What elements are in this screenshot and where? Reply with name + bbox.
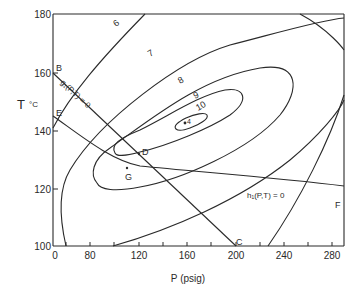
point-c-label: C <box>236 237 243 247</box>
contour-6 <box>53 14 145 128</box>
point-f-label: F <box>335 200 341 210</box>
y-tick-label: 180 <box>34 9 51 20</box>
contour-label-6: 6 <box>111 18 121 29</box>
y-tick-label: 140 <box>34 126 51 137</box>
point-g-label: G <box>125 172 132 182</box>
point-b-label: B <box>56 63 62 73</box>
contour-chart: 0 80 120 160 200 240 280 180 160 140 120… <box>0 0 357 291</box>
y-tick-label: 160 <box>34 68 51 79</box>
y-axis-unit: °C <box>29 100 38 109</box>
contour-7-lower <box>113 100 344 246</box>
point-d-label: D <box>142 147 149 157</box>
contour-6-right <box>300 14 344 50</box>
x-axis-title: P (psig) <box>171 273 205 284</box>
point-g-marker <box>126 167 128 169</box>
y-tick-label: 100 <box>34 241 51 252</box>
y-tick-label: 120 <box>34 184 51 195</box>
x-tick-label: 120 <box>131 250 148 261</box>
contour-label-8: 8 <box>176 75 185 86</box>
optimum-label: 4 <box>187 118 191 125</box>
x-tick-label: 80 <box>84 250 96 261</box>
contour-label-7: 7 <box>146 48 156 59</box>
contour-label-9: 9 <box>192 90 201 101</box>
contour-7 <box>61 18 344 246</box>
x-tick-label: 240 <box>276 250 293 261</box>
contour-10 <box>175 114 207 131</box>
x-tick-label: 0 <box>52 250 58 261</box>
constraint-g1-label: g₁(P,T) = 0 <box>59 78 93 111</box>
x-tick-label: 200 <box>228 250 245 261</box>
constraint-h1-label: h₁(P,T) = 0 <box>247 191 285 200</box>
x-tick-label: 160 <box>179 250 196 261</box>
y-axis-ticks <box>53 73 58 189</box>
y-axis-title: T <box>17 97 25 112</box>
x-axis-ticks <box>66 242 332 246</box>
optimum-point <box>184 122 187 125</box>
point-d-marker <box>138 153 140 155</box>
x-tick-label: 280 <box>324 250 341 261</box>
contour-label-10: 10 <box>194 99 208 113</box>
point-e-label: E <box>56 108 62 118</box>
